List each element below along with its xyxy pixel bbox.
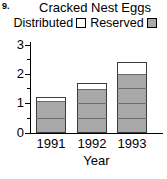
y-tick-label-1: 1 (0, 96, 24, 109)
chart-figure: 9. Cracked Nest Eggs Distributed Reserve… (0, 0, 167, 179)
bar-segment-1991-reserved[interactable] (36, 101, 66, 133)
y-tick-1 (25, 103, 31, 104)
legend-entry-reserved: Reserved (90, 16, 157, 30)
y-tick-labels: 3 2 1 0 (0, 0, 24, 179)
bar-1992-internal-rule-0-5 (77, 118, 107, 119)
y-tick-0-5 (27, 118, 31, 119)
x-tick-label-1993: 1993 (112, 136, 152, 151)
chart-legend: Distributed Reserved (5, 16, 165, 30)
legend-label-reserved: Reserved (90, 16, 144, 30)
y-tick-2-5 (27, 59, 31, 60)
y-tick-label-3: 3 (0, 38, 24, 51)
x-tick-label-1991: 1991 (31, 136, 71, 151)
bar-segment-1991-distributed[interactable] (36, 97, 66, 102)
y-tick-0 (25, 133, 31, 134)
x-axis-line (30, 133, 163, 134)
bar-1992[interactable] (77, 83, 107, 133)
legend-entry-distributed: Distributed (13, 16, 86, 30)
bar-segment-1992-distributed[interactable] (77, 83, 107, 90)
y-tick-2 (25, 74, 31, 75)
bar-1993[interactable] (117, 62, 147, 133)
bar-1991[interactable] (36, 97, 66, 133)
y-tick-label-0: 0 (0, 126, 24, 139)
y-tick-1-5 (27, 88, 31, 89)
bar-1993-internal-rule-1-5 (117, 88, 147, 89)
bar-segment-1992-reserved[interactable] (77, 89, 107, 133)
bar-1993-internal-rule-0-5 (117, 118, 147, 119)
gray-square-icon (147, 18, 157, 28)
bar-segment-1993-distributed[interactable] (117, 62, 147, 75)
bar-1992-internal-rule-1-0 (77, 103, 107, 104)
y-tick-3 (25, 45, 31, 46)
bar-1993-internal-rule-1-0 (117, 103, 147, 104)
white-square-icon (76, 18, 86, 28)
chart-title: Cracked Nest Eggs (26, 0, 164, 15)
x-tick-label-1992: 1992 (72, 136, 112, 151)
x-axis-title: Year (30, 153, 163, 168)
y-tick-label-2: 2 (0, 67, 24, 80)
bar-1991-internal-rule-0-5 (36, 118, 66, 119)
